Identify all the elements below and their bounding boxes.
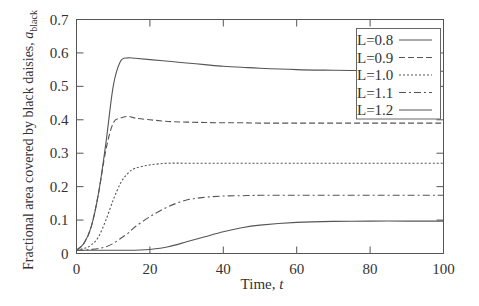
x-tick-label: 80 — [363, 261, 378, 277]
legend-label: L=0.8 — [357, 32, 393, 48]
y-axis-label: Fractional area covered by black daisies… — [21, 10, 39, 270]
y-tick-labels: 00.10.20.30.40.50.60.7 — [50, 12, 69, 262]
legend-label: L=1.0 — [357, 67, 393, 83]
y-tick-label: 0 — [61, 246, 69, 262]
y-tick-label: 0.6 — [50, 45, 69, 61]
series-line-3 — [77, 163, 444, 250]
x-tick-label: 40 — [216, 261, 231, 277]
legend-label: L=1.2 — [357, 102, 393, 118]
x-tick-label: 100 — [432, 261, 455, 277]
series-line-5 — [77, 221, 444, 250]
y-tick-label: 0.1 — [50, 212, 69, 228]
y-tick-label: 0.3 — [50, 145, 69, 161]
x-tick-labels: 020406080100 — [73, 261, 455, 277]
legend-label: L=1.1 — [357, 85, 393, 101]
x-axis-label: Time, t — [241, 276, 285, 292]
legend-label: L=0.9 — [357, 50, 393, 66]
y-tick-label: 0.2 — [50, 179, 69, 195]
line-chart: 00.10.20.30.40.50.60.7 020406080100 L=0.… — [0, 0, 479, 306]
y-tick-label: 0.4 — [50, 112, 69, 128]
series-line-4 — [77, 195, 444, 250]
x-tick-label: 0 — [73, 261, 81, 277]
legend: L=0.8L=0.9L=1.0L=1.1L=1.2 — [357, 29, 441, 120]
y-tick-label: 0.7 — [50, 12, 69, 28]
x-tick-label: 60 — [289, 261, 304, 277]
x-tick-label: 20 — [142, 261, 157, 277]
y-tick-label: 0.5 — [50, 78, 69, 94]
